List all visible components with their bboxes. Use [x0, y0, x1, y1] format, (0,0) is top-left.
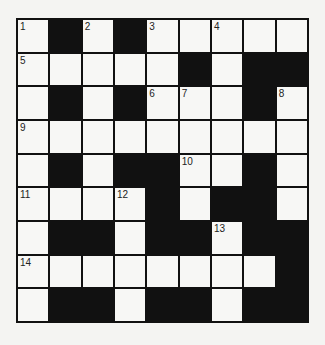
letter-cell[interactable]: [180, 188, 210, 220]
letter-cell[interactable]: 14: [18, 256, 48, 288]
letter-cell[interactable]: [83, 121, 113, 153]
black-square: [180, 289, 210, 321]
letter-cell[interactable]: 6: [147, 87, 177, 119]
black-square: [244, 87, 274, 119]
clue-number: 3: [149, 21, 155, 32]
letter-cell[interactable]: 8: [277, 87, 307, 119]
letter-cell[interactable]: [83, 87, 113, 119]
letter-cell[interactable]: [115, 256, 145, 288]
letter-cell[interactable]: [50, 121, 80, 153]
black-square: [147, 222, 177, 254]
clue-number: 8: [279, 88, 285, 99]
clue-number: 1: [20, 21, 26, 32]
clue-number: 14: [20, 257, 31, 268]
black-square: [147, 155, 177, 187]
letter-cell[interactable]: 9: [18, 121, 48, 153]
letter-cell[interactable]: [50, 256, 80, 288]
letter-cell[interactable]: [277, 121, 307, 153]
letter-cell[interactable]: [244, 256, 274, 288]
letter-cell[interactable]: 11: [18, 188, 48, 220]
letter-cell[interactable]: [18, 155, 48, 187]
letter-cell[interactable]: [212, 256, 242, 288]
black-square: [147, 188, 177, 220]
black-square: [83, 289, 113, 321]
black-square: [83, 222, 113, 254]
black-square: [277, 222, 307, 254]
letter-cell[interactable]: [147, 54, 177, 86]
letter-cell[interactable]: [212, 289, 242, 321]
letter-cell[interactable]: 5: [18, 54, 48, 86]
letter-cell[interactable]: [83, 155, 113, 187]
black-square: [50, 87, 80, 119]
black-square: [147, 289, 177, 321]
letter-cell[interactable]: [115, 289, 145, 321]
clue-number: 5: [20, 55, 26, 66]
clue-number: 12: [117, 189, 128, 200]
black-square: [277, 289, 307, 321]
letter-cell[interactable]: 13: [212, 222, 242, 254]
letter-cell[interactable]: [18, 222, 48, 254]
black-square: [277, 54, 307, 86]
clue-number: 9: [20, 122, 26, 133]
black-square: [212, 188, 242, 220]
letter-cell[interactable]: [244, 121, 274, 153]
letter-cell[interactable]: [83, 188, 113, 220]
clue-number: 7: [182, 88, 188, 99]
clue-number: 6: [149, 88, 155, 99]
letter-cell[interactable]: [18, 87, 48, 119]
black-square: [244, 155, 274, 187]
clue-number: 2: [85, 21, 91, 32]
black-square: [244, 188, 274, 220]
letter-cell[interactable]: [180, 121, 210, 153]
letter-cell[interactable]: 2: [83, 20, 113, 52]
letter-cell[interactable]: [180, 20, 210, 52]
letter-cell[interactable]: [277, 155, 307, 187]
letter-cell[interactable]: [180, 256, 210, 288]
letter-cell[interactable]: [147, 256, 177, 288]
letter-cell[interactable]: [212, 87, 242, 119]
black-square: [244, 289, 274, 321]
letter-cell[interactable]: [115, 222, 145, 254]
letter-cell[interactable]: [18, 289, 48, 321]
clue-number: 13: [214, 223, 225, 234]
black-square: [244, 222, 274, 254]
letter-cell[interactable]: 7: [180, 87, 210, 119]
black-square: [50, 222, 80, 254]
black-square: [115, 87, 145, 119]
black-square: [244, 54, 274, 86]
letter-cell[interactable]: 3: [147, 20, 177, 52]
letter-cell[interactable]: [244, 20, 274, 52]
black-square: [50, 20, 80, 52]
letter-cell[interactable]: [50, 54, 80, 86]
letter-cell[interactable]: 12: [115, 188, 145, 220]
crossword-grid: 1234567891011121314: [16, 18, 309, 323]
black-square: [115, 20, 145, 52]
letter-cell[interactable]: [277, 188, 307, 220]
black-square: [180, 54, 210, 86]
black-square: [50, 155, 80, 187]
letter-cell[interactable]: 1: [18, 20, 48, 52]
letter-cell[interactable]: [277, 20, 307, 52]
black-square: [277, 256, 307, 288]
letter-cell[interactable]: [147, 121, 177, 153]
letter-cell[interactable]: [83, 256, 113, 288]
letter-cell[interactable]: [212, 155, 242, 187]
clue-number: 4: [214, 21, 220, 32]
clue-number: 11: [20, 189, 30, 200]
black-square: [180, 222, 210, 254]
letter-cell[interactable]: [212, 121, 242, 153]
letter-cell[interactable]: 10: [180, 155, 210, 187]
letter-cell[interactable]: [115, 54, 145, 86]
black-square: [115, 155, 145, 187]
letter-cell[interactable]: 4: [212, 20, 242, 52]
letter-cell[interactable]: [212, 54, 242, 86]
letter-cell[interactable]: [115, 121, 145, 153]
clue-number: 10: [182, 156, 193, 167]
letter-cell[interactable]: [83, 54, 113, 86]
black-square: [50, 289, 80, 321]
letter-cell[interactable]: [50, 188, 80, 220]
